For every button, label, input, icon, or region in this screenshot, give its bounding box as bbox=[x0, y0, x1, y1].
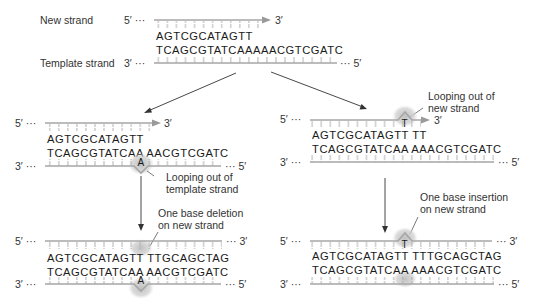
template-strand-label: Template strand bbox=[40, 57, 115, 69]
left-mid-annotation-pointer bbox=[147, 171, 154, 176]
right-mid-template-sequence: TCAGCGTATCAA AAACGTCGATC bbox=[312, 143, 502, 155]
right-mid-template-5prime: ··· 5′ bbox=[498, 156, 519, 168]
right-bottom-annotation-line1: One base insertion bbox=[420, 191, 508, 203]
right-mid-looped-base: T bbox=[402, 118, 408, 129]
left-mid-new-ticks bbox=[45, 124, 153, 131]
branch-arrows bbox=[144, 72, 367, 113]
left-mid-annotation-line2: template strand bbox=[166, 183, 239, 195]
right-mid-annotation-line1: Looping out of bbox=[428, 90, 495, 102]
left-down-arrowhead-icon bbox=[138, 224, 144, 231]
left-mid-template-3prime: 3′ ··· bbox=[15, 160, 36, 172]
template-strand-ticks bbox=[154, 56, 337, 63]
right-mid-new-5prime: 5′ ··· bbox=[280, 113, 301, 125]
left-bottom-annotation-line2: on new strand bbox=[158, 219, 224, 231]
left-mid-looped-base: A bbox=[138, 157, 145, 168]
right-mid-new-sequence: AGTCGCATAGTT TT bbox=[312, 129, 427, 141]
left-bottom-new-ticks bbox=[45, 242, 222, 249]
new-strand-5prime: 5′ ··· bbox=[124, 14, 145, 26]
template-strand-3prime: 3′ ··· bbox=[124, 57, 145, 69]
right-mid-arrowhead-icon bbox=[421, 117, 430, 124]
right-mid-new-3prime: 3′ bbox=[434, 114, 442, 126]
left-mid-annotation-line1: Looping out of bbox=[166, 171, 233, 183]
branch-arrow-right bbox=[271, 72, 363, 107]
left-mid-new-3prime: 3′ bbox=[164, 117, 172, 129]
right-bottom-annotation-line2: on new strand bbox=[420, 203, 486, 215]
left-bottom-template-ticks bbox=[45, 277, 221, 284]
left-bottom-new-sequence: AGTCGCATAGTT TTGCAGCTAG bbox=[47, 252, 230, 264]
right-mid-template-3prime: 3′ ··· bbox=[280, 156, 301, 168]
left-bottom-new-3prime: ··· 3′ bbox=[226, 235, 247, 247]
replication-slippage-diagram: New strand Template strand 5′ ··· 3′ AGT… bbox=[0, 0, 535, 306]
left-mid-new-5prime: 5′ ··· bbox=[15, 117, 36, 129]
left-bottom-annotation-line1: One base deletion bbox=[158, 207, 243, 219]
right-bottom-template-ticks bbox=[310, 277, 494, 284]
top-original-duplex: New strand Template strand 5′ ··· 3′ AGT… bbox=[40, 14, 361, 69]
left-bottom-template-5prime: ··· 5′ bbox=[225, 278, 246, 290]
left-bottom-new-5prime: 5′ ··· bbox=[15, 235, 36, 247]
right-insertion-result-duplex: One base insertion on new strand 5′ ··· … bbox=[280, 191, 519, 290]
right-mid-annotation-line2: new strand bbox=[428, 102, 480, 114]
arrowhead-right-icon bbox=[360, 104, 368, 110]
right-bottom-template-3prime: 3′ ··· bbox=[280, 278, 301, 290]
left-bottom-looped-base: A bbox=[138, 275, 145, 286]
right-bottom-template-5prime: ··· 5′ bbox=[498, 278, 519, 290]
new-strand-arrowhead-icon bbox=[262, 17, 271, 24]
left-mid-new-sequence: AGTCGCATAGTT bbox=[47, 133, 144, 145]
template-strand-sequence: TCAGCGTATCAAAAACGTCGATC bbox=[156, 44, 343, 56]
new-strand-sequence: AGTCGCATAGTT bbox=[156, 30, 253, 42]
right-down-arrowhead-icon bbox=[382, 226, 388, 233]
branch-arrow-left bbox=[148, 73, 236, 111]
right-bottom-new-5prime: 5′ ··· bbox=[280, 235, 301, 247]
arrowhead-left-icon bbox=[144, 108, 152, 114]
right-bottom-template-sequence: TCAGCGTATCAA AAACGTCGATC bbox=[312, 264, 502, 276]
new-strand-ticks bbox=[154, 21, 263, 28]
new-strand-3prime: 3′ bbox=[275, 14, 283, 26]
left-mid-template-ticks bbox=[45, 159, 221, 166]
right-bottom-new-sequence: AGTCGCATAGTT TTTGCAGCTAG bbox=[312, 250, 502, 262]
right-bottom-new-3prime: ··· 3′ bbox=[496, 235, 517, 247]
new-strand-label: New strand bbox=[40, 14, 93, 26]
left-mid-arrowhead-icon bbox=[152, 120, 161, 127]
template-strand-5prime: ··· 5′ bbox=[340, 57, 361, 69]
left-bottom-template-3prime: 3′ ··· bbox=[15, 278, 36, 290]
left-deletion-result-duplex: One base deletion on new strand 5′ ··· ·… bbox=[15, 207, 247, 299]
right-bottom-looped-base: T bbox=[402, 239, 408, 250]
right-mid-template-ticks bbox=[310, 155, 494, 162]
